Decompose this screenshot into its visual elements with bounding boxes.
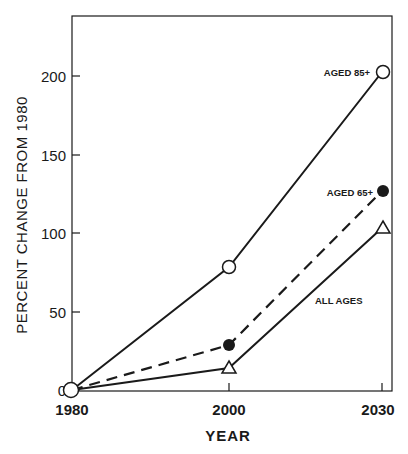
y-tick-200: 200 xyxy=(41,68,66,85)
y-axis-ticks xyxy=(72,76,80,390)
series-label-aged-85: AGED 85+ xyxy=(324,67,371,78)
y-axis-title: PERCENT CHANGE FROM 1980 xyxy=(13,96,30,334)
y-axis-tick-labels: 0 50 100 150 200 xyxy=(41,68,66,399)
chart: 0 50 100 150 200 1980 2000 2030 YEAR PER… xyxy=(0,0,408,454)
x-axis-ticks xyxy=(229,383,382,391)
y-tick-50: 50 xyxy=(49,304,66,321)
filled-circle-marker xyxy=(377,185,389,197)
x-tick-1980: 1980 xyxy=(55,401,88,418)
series-label-aged-65: AGED 65+ xyxy=(327,187,374,198)
series-line-aged-65 xyxy=(72,191,382,390)
open-circle-marker xyxy=(223,261,236,274)
open-triangle-marker xyxy=(376,221,390,233)
open-circle-marker xyxy=(64,383,79,398)
x-tick-2000: 2000 xyxy=(212,401,245,418)
y-tick-100: 100 xyxy=(41,225,66,242)
open-circle-marker xyxy=(377,66,390,79)
y-tick-150: 150 xyxy=(41,147,66,164)
series-label-all-ages: ALL AGES xyxy=(315,295,363,306)
x-axis-title: YEAR xyxy=(205,427,251,444)
x-axis-tick-labels: 1980 2000 2030 xyxy=(55,401,394,418)
filled-circle-marker xyxy=(223,339,235,351)
x-tick-2030: 2030 xyxy=(361,401,394,418)
